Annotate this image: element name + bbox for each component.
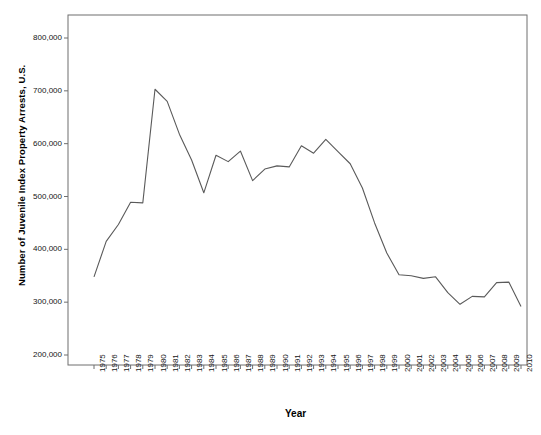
x-axis-tick-label: 1976	[110, 354, 119, 372]
y-axis-tick-label: 200,000	[18, 350, 62, 359]
x-axis-tick-label: 1979	[146, 354, 155, 372]
x-axis-tick-label: 1994	[329, 354, 338, 372]
x-axis-tick-label: 1998	[378, 354, 387, 372]
y-axis-tick-label: 700,000	[18, 86, 62, 95]
x-axis-tick-label: 1977	[122, 354, 131, 372]
plot-frame	[68, 15, 527, 365]
chart-figure: Number of Juvenile Index Property Arrest…	[0, 0, 541, 435]
x-axis-tick-label: 1991	[293, 354, 302, 372]
y-axis-tick-label: 800,000	[18, 33, 62, 42]
x-axis-tick-label: 1990	[281, 354, 290, 372]
x-axis-tick-label: 1989	[268, 354, 277, 372]
x-axis-tick-label: 1993	[317, 354, 326, 372]
y-axis-tick-label: 600,000	[18, 139, 62, 148]
y-axis-tick-label: 500,000	[18, 192, 62, 201]
x-axis-tick-label: 2004	[451, 354, 460, 372]
x-axis-tick-label: 2005	[464, 354, 473, 372]
data-series-line	[94, 89, 521, 306]
x-axis-tick-label: 1983	[195, 354, 204, 372]
x-axis-tick-label: 2000	[403, 354, 412, 372]
x-axis-tick-label: 2009	[512, 354, 521, 372]
x-axis-tick-label: 2002	[427, 354, 436, 372]
x-axis-title: Year	[285, 408, 306, 419]
x-axis-tick-label: 1987	[244, 354, 253, 372]
x-axis-tick-label: 2001	[415, 354, 424, 372]
y-axis-tick-label: 300,000	[18, 297, 62, 306]
x-axis-tick-label: 2003	[439, 354, 448, 372]
y-axis-tick-label: 400,000	[18, 244, 62, 253]
x-axis-tick-label: 1999	[390, 354, 399, 372]
x-axis-tick-label: 1985	[220, 354, 229, 372]
x-axis-tick-label: 1978	[134, 354, 143, 372]
x-axis-tick-label: 1981	[171, 354, 180, 372]
x-axis-tick-label: 1982	[183, 354, 192, 372]
x-axis-tick-label: 1984	[207, 354, 216, 372]
x-axis-tick-label: 1980	[159, 354, 168, 372]
x-axis-tick-label: 1988	[256, 354, 265, 372]
x-axis-tick-label: 1975	[98, 354, 107, 372]
x-axis-tick-label: 2006	[476, 354, 485, 372]
x-axis-tick-label: 1995	[342, 354, 351, 372]
x-axis-tick-label: 1996	[354, 354, 363, 372]
x-axis-tick-label: 2010	[525, 354, 534, 372]
faint-header-text	[0, 0, 541, 10]
x-axis-tick-label: 1986	[232, 354, 241, 372]
x-axis-tick-label: 1997	[366, 354, 375, 372]
x-axis-tick-label: 2008	[500, 354, 509, 372]
x-axis-tick-label: 1992	[305, 354, 314, 372]
x-axis-tick-label: 2007	[488, 354, 497, 372]
